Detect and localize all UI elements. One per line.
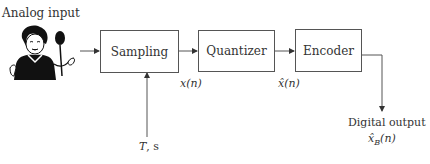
- digital-output-label: Digital output: [348, 116, 426, 129]
- analog-input-label: Analog input: [2, 6, 80, 20]
- quantized-signal-label: x̂(n): [278, 77, 300, 90]
- sampled-signal-label: x(n): [180, 77, 202, 90]
- quantizer-label: Quantizer: [206, 44, 266, 58]
- sampling-label: Sampling: [111, 45, 169, 59]
- output-signal-label: x̂B(n): [368, 132, 396, 147]
- quantizer-block: Quantizer: [198, 30, 275, 72]
- encoder-block: Encoder: [295, 29, 362, 72]
- encoder-label: Encoder: [303, 44, 354, 58]
- singer-icon: [2, 24, 82, 80]
- sampling-block: Sampling: [100, 30, 179, 73]
- sampling-period-label: T, s: [139, 140, 159, 153]
